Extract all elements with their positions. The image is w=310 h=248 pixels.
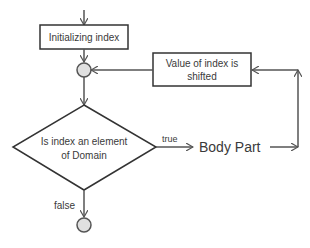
false-label: false bbox=[54, 200, 76, 211]
body-part-label: Body Part bbox=[199, 139, 261, 155]
end-circle bbox=[77, 218, 91, 232]
shift-label-line1: Value of index is bbox=[166, 58, 239, 69]
init-node: Initializing index bbox=[40, 25, 128, 49]
decision-node: Is index an element of Domain bbox=[13, 105, 156, 190]
decision-label-line1: Is index an element bbox=[41, 136, 128, 147]
true-label: true bbox=[162, 134, 178, 144]
shift-label-line2: shifted bbox=[187, 71, 216, 82]
decision-label-line2: of Domain bbox=[61, 150, 107, 161]
junction-circle bbox=[77, 63, 91, 77]
shift-node: Value of index is shifted bbox=[153, 53, 251, 86]
flowchart: Initializing index Value of index is shi… bbox=[0, 0, 310, 248]
init-label: Initializing index bbox=[49, 32, 120, 43]
